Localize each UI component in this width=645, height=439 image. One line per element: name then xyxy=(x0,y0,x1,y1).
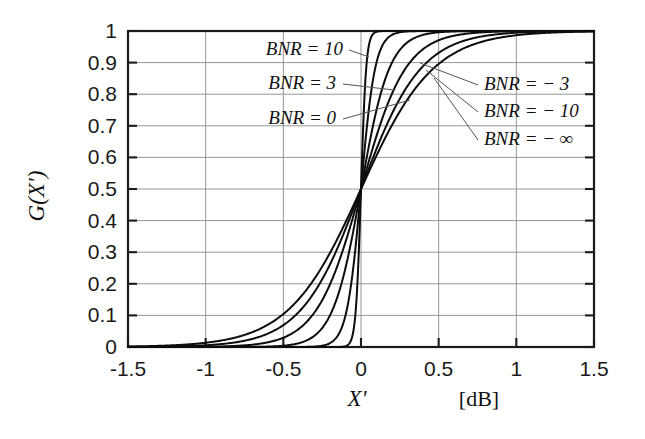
y-tick-label: 0 xyxy=(105,335,117,358)
y-axis-tick-labels: 00.10.20.30.40.50.60.70.80.91 xyxy=(88,19,118,358)
y-axis-title: G(X') xyxy=(24,171,49,222)
x-tick-label: 1.5 xyxy=(579,357,608,380)
y-tick-label: 0.8 xyxy=(88,82,117,105)
annotation-label-bnr-neg10: BNR = − 10 xyxy=(484,100,579,121)
x-tick-label: -1.5 xyxy=(110,357,146,380)
x-tick-label: -1 xyxy=(196,357,215,380)
x-tick-label: 1 xyxy=(510,357,522,380)
annotation-label-bnr-10: BNR = 10 xyxy=(266,38,344,59)
x-axis-unit-label: [dB] xyxy=(459,386,499,411)
y-tick-label: 0.1 xyxy=(88,303,117,326)
y-tick-label: 0.4 xyxy=(88,209,118,232)
annotation-label-bnr-neginf: BNR = − ∞ xyxy=(484,128,573,149)
chart-figure: 00.10.20.30.40.50.60.70.80.91 -1.5-1-0.5… xyxy=(0,0,645,439)
annotation-label-bnr-neg3: BNR = − 3 xyxy=(484,73,569,94)
annotation-label-bnr-3: BNR = 3 xyxy=(268,72,336,93)
y-tick-label: 0.9 xyxy=(88,51,117,74)
y-tick-label: 0.3 xyxy=(88,240,117,263)
x-tick-label: 0 xyxy=(355,357,367,380)
x-tick-label: 0.5 xyxy=(424,357,453,380)
sigmoid-gain-chart: 00.10.20.30.40.50.60.70.80.91 -1.5-1-0.5… xyxy=(0,0,645,439)
y-tick-label: 0.5 xyxy=(88,177,117,200)
y-tick-label: 1 xyxy=(105,19,117,42)
y-tick-label: 0.2 xyxy=(88,272,117,295)
x-tick-label: -0.5 xyxy=(265,357,301,380)
y-tick-label: 0.7 xyxy=(88,114,117,137)
x-axis-title: X' xyxy=(347,386,368,411)
annotation-label-bnr-0: BNR = 0 xyxy=(268,107,336,128)
y-tick-label: 0.6 xyxy=(88,145,117,168)
